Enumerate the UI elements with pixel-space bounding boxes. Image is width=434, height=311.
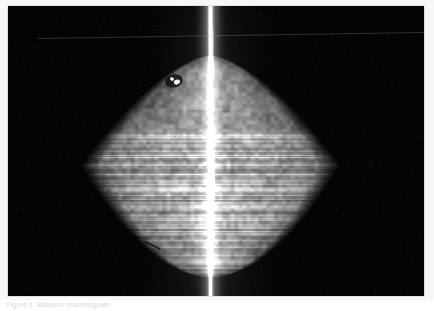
- page-background: Figure 1. Bilateral mammogram: [0, 0, 434, 311]
- figure-caption: Figure 1. Bilateral mammogram: [6, 300, 110, 309]
- caption-strip: Figure 1. Bilateral mammogram: [0, 300, 434, 311]
- radiograph-frame[interactable]: [8, 6, 424, 296]
- mammogram-image[interactable]: [8, 6, 424, 296]
